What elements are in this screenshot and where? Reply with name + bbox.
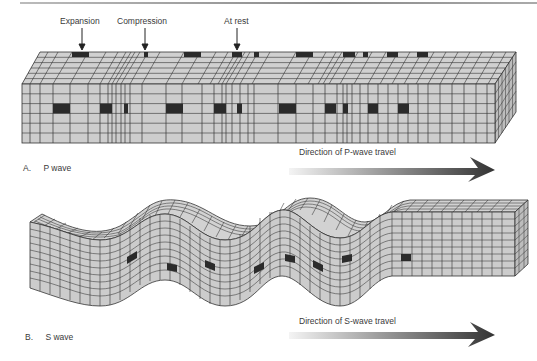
panel-a-caption: A. P wave — [23, 163, 71, 173]
p-wave-direction-label: Direction of P-wave travel — [299, 147, 396, 157]
panel-b-caption: B. S wave — [25, 332, 73, 342]
p-wave-front-face — [22, 84, 495, 143]
panel-b-title: S wave — [45, 332, 73, 342]
p-wave-top-face — [22, 52, 516, 84]
callout-arrows — [79, 28, 240, 50]
s-wave-block-diagram — [30, 198, 528, 306]
callout-at-rest: At rest — [224, 16, 249, 26]
s-wave-direction-label: Direction of S-wave travel — [299, 316, 396, 326]
panel-a-letter: A. — [23, 163, 31, 173]
callout-expansion: Expansion — [60, 16, 100, 26]
p-wave-direction-arrow — [289, 157, 495, 182]
p-wave-block-diagram — [0, 0, 537, 361]
panel-b-letter: B. — [25, 332, 33, 342]
callout-compression: Compression — [117, 16, 167, 26]
panel-a-title: P wave — [43, 163, 71, 173]
